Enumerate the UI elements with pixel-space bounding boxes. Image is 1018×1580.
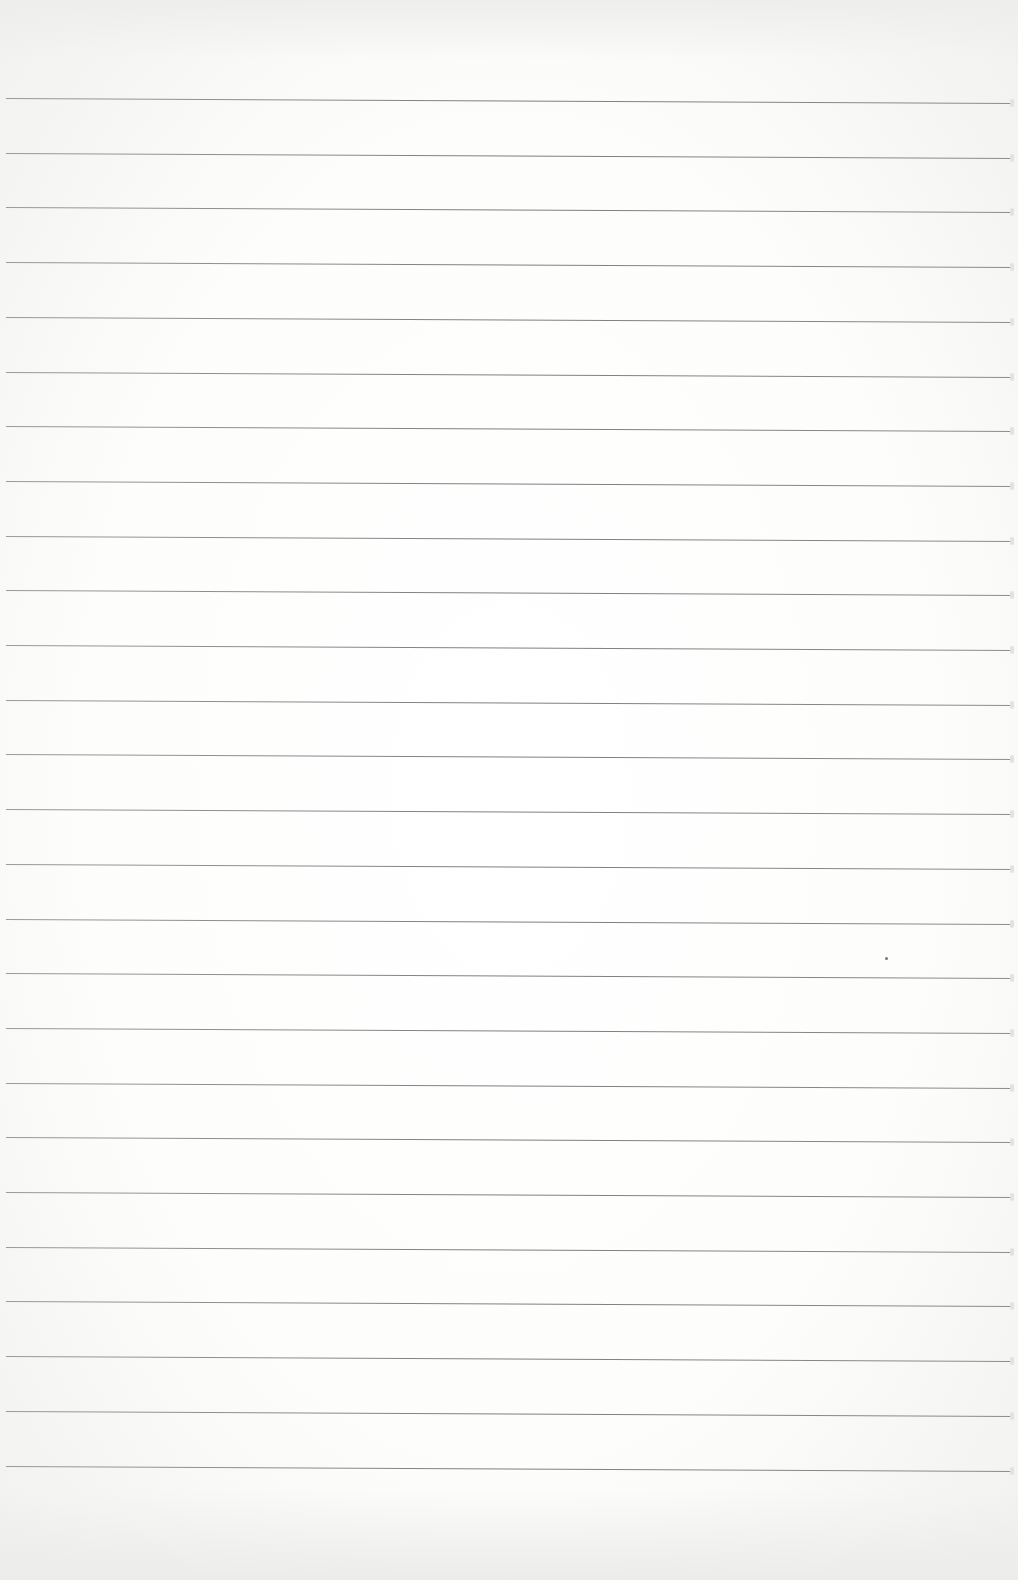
ruled-line — [6, 1356, 1014, 1362]
edge-notch — [1010, 1302, 1014, 1310]
ruled-line — [6, 645, 1014, 651]
edge-notch — [1010, 482, 1014, 490]
edge-notch — [1010, 646, 1014, 654]
ruled-line — [6, 317, 1014, 323]
ruled-line — [6, 153, 1014, 159]
ruled-line — [6, 1466, 1014, 1472]
paper-speck — [885, 957, 888, 960]
ruled-line — [6, 1083, 1014, 1089]
scan-shadow-top — [0, 0, 1018, 60]
ruled-line — [6, 973, 1014, 979]
ruled-line — [6, 1301, 1014, 1307]
ruled-line — [6, 590, 1014, 596]
edge-notch — [1010, 318, 1014, 326]
edge-notch — [1010, 537, 1014, 545]
edge-notch — [1010, 591, 1014, 599]
edge-notch — [1010, 755, 1014, 763]
ruled-line — [6, 754, 1014, 760]
edge-notch — [1010, 373, 1014, 381]
edge-notch — [1010, 865, 1014, 873]
edge-notch — [1010, 1412, 1014, 1420]
edge-notch — [1010, 1357, 1014, 1365]
ruled-line — [6, 98, 1014, 104]
ruled-line — [6, 1247, 1014, 1253]
edge-notch — [1010, 1138, 1014, 1146]
ruled-line — [6, 919, 1014, 925]
ruled-line — [6, 1192, 1014, 1198]
edge-notch — [1010, 154, 1014, 162]
edge-notch — [1010, 920, 1014, 928]
ruled-line — [6, 207, 1014, 213]
lined-paper-page — [0, 0, 1018, 1580]
edge-notch — [1010, 1029, 1014, 1037]
ruled-line — [6, 536, 1014, 542]
ruled-line — [6, 700, 1014, 706]
edge-notch — [1010, 1467, 1014, 1475]
ruled-line — [6, 426, 1014, 432]
edge-notch — [1010, 1084, 1014, 1092]
ruled-line — [6, 864, 1014, 870]
edge-notch — [1010, 99, 1014, 107]
scan-shadow-bottom — [0, 1490, 1018, 1580]
ruled-line — [6, 809, 1014, 815]
edge-notch — [1010, 263, 1014, 271]
edge-notch — [1010, 1248, 1014, 1256]
ruled-line — [6, 1028, 1014, 1034]
ruled-line — [6, 1137, 1014, 1143]
edge-notch — [1010, 701, 1014, 709]
edge-notch — [1010, 427, 1014, 435]
edge-notch — [1010, 208, 1014, 216]
ruled-line — [6, 262, 1014, 268]
ruled-line — [6, 481, 1014, 487]
ruled-line — [6, 1411, 1014, 1417]
ruled-line — [6, 372, 1014, 378]
edge-notch — [1010, 1193, 1014, 1201]
edge-notch — [1010, 810, 1014, 818]
edge-notch — [1010, 974, 1014, 982]
